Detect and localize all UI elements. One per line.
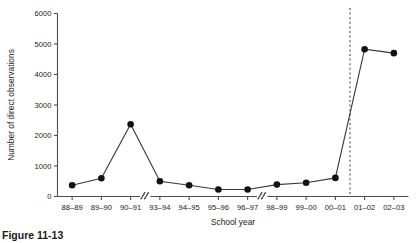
data-point [361,46,368,53]
y-tick-label: 4000 [35,70,52,79]
data-point [244,186,251,193]
x-tick-label: 01–02 [354,203,375,212]
figure-caption-strip: Figure 11-13 [0,231,416,243]
x-tick-label: 96–97 [237,203,258,212]
x-tick-label: 00–01 [325,203,346,212]
x-tick-label: 88–89 [62,203,83,212]
y-tick-label: 6000 [35,9,52,18]
data-point [303,179,310,186]
x-tick-label: 93–94 [149,203,170,212]
data-point [332,175,339,182]
y-tick-label: 0 [47,192,51,201]
figure-container: 0100020003000400050006000 88–8989–9090–9… [0,0,416,243]
x-tick-label: 98–99 [266,203,287,212]
x-tick-label: 02–03 [383,203,404,212]
line-chart: 0100020003000400050006000 88–8989–9090–9… [0,0,416,243]
x-tick-label: 89–90 [91,203,112,212]
y-axis-title: Number of direct observations [6,49,16,161]
y-tick-label: 2000 [35,131,52,140]
y-tick-label: 1000 [35,162,52,171]
data-point [274,181,281,188]
y-tick-label: 3000 [35,101,52,110]
data-point [157,178,164,185]
data-point [391,50,398,57]
data-point [186,182,193,189]
x-tick-label: 95–96 [208,203,229,212]
data-point [215,186,222,193]
data-point [127,121,134,128]
data-point [69,182,76,189]
data-point [98,175,105,182]
y-tick-label: 5000 [35,40,52,49]
x-tick-label: 94–95 [179,203,200,212]
figure-caption: Figure 11-13 [2,231,63,241]
x-axis-title: School year [211,217,255,227]
x-tick-label: 90–91 [120,203,141,212]
x-tick-label: 99–00 [296,203,317,212]
